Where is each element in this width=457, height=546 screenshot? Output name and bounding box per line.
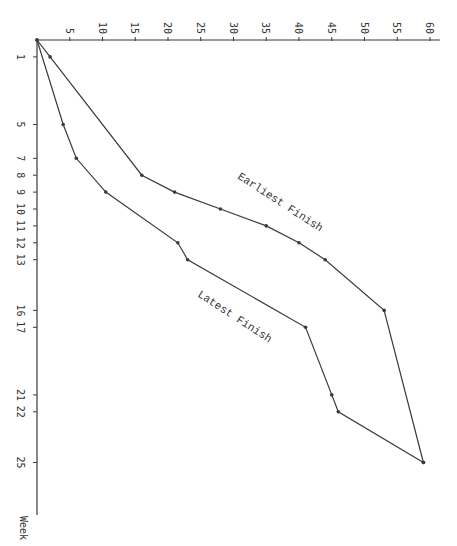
- value-tick-label: 60: [424, 22, 435, 34]
- series-lines: [35, 38, 425, 464]
- value-tick-label: 50: [359, 22, 370, 34]
- data-point: [382, 309, 386, 313]
- data-point: [35, 38, 39, 42]
- earliest-finish-line: [37, 40, 423, 463]
- week-tick-label: 1: [15, 54, 26, 60]
- value-tick-label: 35: [260, 22, 271, 34]
- week-tick-label: 25: [15, 456, 26, 468]
- week-axis-label: Week: [18, 516, 29, 540]
- value-tick-label: 55: [391, 22, 402, 34]
- data-point: [140, 173, 144, 177]
- data-point: [186, 258, 190, 262]
- week-tick-label: 11: [15, 220, 26, 232]
- week-tick-label: 13: [15, 254, 26, 266]
- value-tick-label: 25: [195, 22, 206, 34]
- data-point: [330, 393, 334, 397]
- data-point: [173, 190, 177, 194]
- value-tick-label: 45: [326, 22, 337, 34]
- week-tick-label: 10: [15, 203, 26, 215]
- week-tick-label: 12: [15, 237, 26, 249]
- ticks: 5101520253035404550556015789101112131617…: [15, 22, 435, 469]
- data-point: [337, 410, 341, 414]
- data-point: [264, 224, 268, 228]
- axes: [37, 40, 440, 515]
- data-point: [219, 207, 223, 211]
- data-point: [297, 241, 301, 245]
- value-tick-label: 40: [293, 22, 304, 34]
- earliest-finish-label: Earliest Finish: [235, 170, 325, 234]
- week-tick-label: 21: [15, 389, 26, 401]
- data-point: [61, 123, 65, 127]
- data-point: [104, 190, 108, 194]
- latest-finish-label: Latest Finish: [195, 288, 274, 345]
- data-point: [75, 157, 79, 161]
- chart: 5101520253035404550556015789101112131617…: [0, 0, 457, 546]
- week-tick-label: 17: [15, 321, 26, 333]
- value-tick-label: 20: [162, 22, 173, 34]
- value-tick-label: 15: [129, 22, 140, 34]
- value-tick-label: 5: [64, 28, 75, 34]
- value-tick-label: 30: [228, 22, 239, 34]
- week-tick-label: 22: [15, 406, 26, 418]
- data-point: [48, 55, 52, 59]
- week-tick-label: 9: [15, 189, 26, 195]
- week-tick-label: 7: [15, 155, 26, 161]
- data-point: [176, 241, 180, 245]
- value-tick-label: 10: [97, 22, 108, 34]
- data-point: [304, 326, 308, 330]
- week-tick-label: 8: [15, 172, 26, 178]
- data-point: [422, 461, 426, 465]
- latest-finish-line: [37, 40, 423, 463]
- data-point: [323, 258, 327, 262]
- week-tick-label: 16: [15, 304, 26, 316]
- week-tick-label: 5: [15, 121, 26, 127]
